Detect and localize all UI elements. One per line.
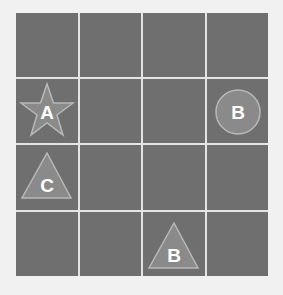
piece-label: B <box>167 245 181 266</box>
triangle-piece[interactable]: C <box>16 145 78 210</box>
cell-r2-c4[interactable]: B <box>207 79 268 143</box>
piece-label: A <box>40 102 54 123</box>
cell-r3-c2[interactable] <box>80 145 141 210</box>
cell-r1-c3[interactable] <box>143 13 205 77</box>
cell-r1-c1[interactable] <box>16 13 78 77</box>
cell-r3-c3[interactable] <box>143 145 205 210</box>
star-piece[interactable]: A <box>16 79 78 143</box>
cell-r1-c4[interactable] <box>207 13 268 77</box>
circle-icon: B <box>207 79 268 143</box>
cell-r1-c2[interactable] <box>80 13 141 77</box>
cell-r2-c1[interactable]: A <box>16 79 78 143</box>
cell-r2-c3[interactable] <box>143 79 205 143</box>
piece-label: C <box>40 175 54 196</box>
star-icon: A <box>16 79 78 143</box>
cell-r3-c1[interactable]: C <box>16 145 78 210</box>
cell-r3-c4[interactable] <box>207 145 268 210</box>
game-board: A B C B <box>16 13 268 276</box>
triangle-piece[interactable]: B <box>143 212 205 276</box>
triangle-icon: C <box>16 145 78 210</box>
cell-r4-c4[interactable] <box>207 212 268 276</box>
circle-piece[interactable]: B <box>207 79 268 143</box>
cell-r4-c2[interactable] <box>80 212 141 276</box>
triangle-icon: B <box>143 212 205 276</box>
cell-r4-c1[interactable] <box>16 212 78 276</box>
cell-r2-c2[interactable] <box>80 79 141 143</box>
piece-label: B <box>231 102 245 123</box>
cell-r4-c3[interactable]: B <box>143 212 205 276</box>
